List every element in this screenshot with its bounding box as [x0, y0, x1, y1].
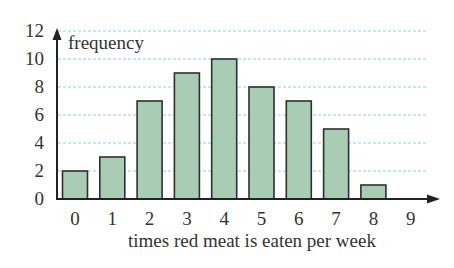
bar-6	[286, 101, 311, 199]
x-tick-label: 4	[219, 208, 229, 229]
x-tick-label: 1	[108, 208, 118, 229]
y-tick-label: 0	[35, 188, 45, 209]
bar-1	[100, 157, 125, 199]
bar-0	[63, 171, 88, 199]
y-tick-label: 4	[35, 132, 45, 153]
x-tick-label: 2	[145, 208, 155, 229]
bar-3	[174, 73, 199, 199]
y-axis-label: frequency	[68, 32, 144, 53]
bar-chart: 024681012 0123456789 frequency times red…	[0, 0, 454, 268]
y-tick-label: 12	[25, 20, 44, 41]
bar-4	[212, 59, 237, 199]
x-tick-label: 7	[331, 208, 341, 229]
bar-8	[361, 185, 386, 199]
bars	[63, 59, 386, 199]
x-tick-label: 5	[257, 208, 267, 229]
x-axis-label: times red meat is eaten per week	[128, 230, 376, 251]
bar-2	[137, 101, 162, 199]
x-axis-arrow-icon	[427, 195, 440, 204]
y-tick-label: 2	[35, 160, 45, 181]
x-tick-label: 6	[294, 208, 304, 229]
x-tick-label: 8	[369, 208, 379, 229]
y-tick-label: 6	[35, 104, 45, 125]
bar-5	[249, 87, 274, 199]
y-tick-label: 10	[25, 48, 44, 69]
y-tick-labels: 024681012	[25, 20, 45, 209]
x-tick-label: 0	[70, 208, 80, 229]
y-axis-arrow-icon	[53, 28, 62, 40]
bar-7	[324, 129, 349, 199]
y-tick-label: 8	[35, 76, 45, 97]
x-tick-label: 9	[406, 208, 416, 229]
x-tick-label: 3	[182, 208, 192, 229]
x-tick-labels: 0123456789	[70, 208, 415, 229]
